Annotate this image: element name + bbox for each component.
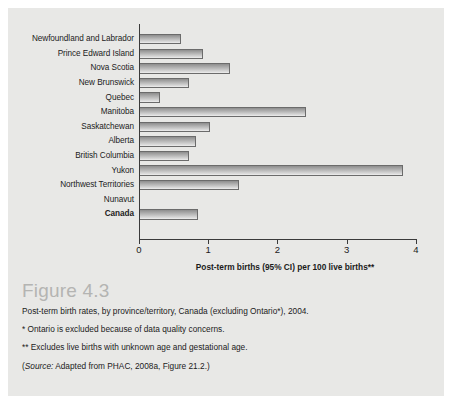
category-label: Yukon <box>8 167 139 175</box>
category-label-canada: Canada <box>8 210 139 218</box>
chart-row: Quebec <box>8 90 444 105</box>
bar <box>139 49 203 59</box>
x-tick-label: 1 <box>206 245 211 255</box>
caption-footnote-1: * Ontario is excluded because of data qu… <box>22 325 432 333</box>
chart-row: British Columbia <box>8 149 444 164</box>
bar-track <box>139 76 444 91</box>
source-text: Adapted from PHAC, 2008a, Figure 21.2.) <box>53 361 209 371</box>
bar <box>139 136 196 146</box>
chart-row: Saskatchewan <box>8 120 444 135</box>
bar-track <box>139 163 444 178</box>
chart-row: Alberta <box>8 134 444 149</box>
caption-footnote-2: ** Excludes live births with unknown age… <box>22 343 432 351</box>
bar-track <box>139 32 444 47</box>
x-tick-label: 4 <box>413 245 418 255</box>
category-label: Nova Scotia <box>8 64 139 72</box>
bar <box>139 180 239 190</box>
x-axis-title: Post-term births (95% CI) per 100 live b… <box>139 263 431 271</box>
bar <box>139 165 403 175</box>
category-label: Newfoundland and Labrador <box>8 35 139 43</box>
chart-row: Prince Edward Island <box>8 47 444 62</box>
category-label: Nunavut <box>8 196 139 204</box>
bar <box>139 34 181 44</box>
category-label: Saskatchewan <box>8 123 139 131</box>
bar-track <box>139 61 444 76</box>
category-label: Quebec <box>8 94 139 102</box>
bar <box>139 107 306 117</box>
bar-track <box>139 149 444 164</box>
chart-row: Yukon <box>8 163 444 178</box>
bar-track <box>139 120 444 135</box>
caption-description: Post-term birth rates, by province/terri… <box>22 307 432 315</box>
figure-panel: Newfoundland and Labrador Prince Edward … <box>8 8 444 396</box>
chart-row: Nunavut <box>8 193 444 208</box>
bar <box>139 78 189 88</box>
chart-row: Canada <box>8 207 444 222</box>
chart-row: New Brunswick <box>8 76 444 91</box>
figure-number: Figure 4.3 <box>22 280 432 302</box>
source-label: Source: <box>25 361 54 371</box>
x-tick-label: 0 <box>136 245 141 255</box>
bar-track <box>139 178 444 193</box>
bar <box>139 122 210 132</box>
chart-row: Newfoundland and Labrador <box>8 32 444 47</box>
bar-track <box>139 47 444 62</box>
bar <box>139 92 160 102</box>
bar-track <box>139 193 444 208</box>
chart-rows: Newfoundland and Labrador Prince Edward … <box>8 32 444 222</box>
bar-track <box>139 105 444 120</box>
x-tick-label: 2 <box>275 245 280 255</box>
bar-chart: Newfoundland and Labrador Prince Edward … <box>8 16 444 276</box>
bar <box>139 151 189 161</box>
x-tick-label: 3 <box>344 245 349 255</box>
bar <box>139 209 198 219</box>
bar-track <box>139 207 444 222</box>
category-label: Prince Edward Island <box>8 50 139 58</box>
category-label: Northwest Territories <box>8 181 139 189</box>
bar-track <box>139 90 444 105</box>
y-axis-line <box>139 24 140 240</box>
category-label: New Brunswick <box>8 79 139 87</box>
figure-page: Newfoundland and Labrador Prince Edward … <box>0 0 452 404</box>
bar <box>139 63 230 73</box>
chart-row: Nova Scotia <box>8 61 444 76</box>
category-label: Alberta <box>8 137 139 145</box>
figure-caption: Figure 4.3 Post-term birth rates, by pro… <box>22 280 432 370</box>
category-label: British Columbia <box>8 152 139 160</box>
chart-row: Northwest Territories <box>8 178 444 193</box>
caption-source: (Source: Adapted from PHAC, 2008a, Figur… <box>22 362 432 370</box>
category-label: Manitoba <box>8 108 139 116</box>
bar-track <box>139 134 444 149</box>
chart-row: Manitoba <box>8 105 444 120</box>
